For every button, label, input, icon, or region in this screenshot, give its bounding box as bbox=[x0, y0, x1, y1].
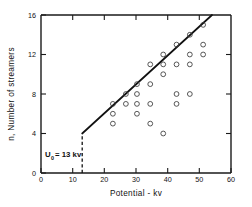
data-point bbox=[174, 92, 179, 97]
threshold-annotation: U 0 = 13 kv bbox=[45, 150, 82, 161]
data-point bbox=[135, 101, 140, 106]
data-point bbox=[110, 111, 115, 116]
x-tick-label-50: 50 bbox=[195, 175, 203, 184]
data-point bbox=[174, 101, 179, 106]
data-point bbox=[135, 92, 140, 97]
data-point bbox=[187, 52, 192, 57]
data-point bbox=[187, 62, 192, 67]
y-tick-label-8: 8 bbox=[32, 90, 36, 99]
data-point bbox=[161, 62, 166, 67]
data-point bbox=[201, 42, 206, 47]
y-tick-label-0: 0 bbox=[32, 169, 36, 178]
y-tick-label-12: 12 bbox=[28, 50, 36, 59]
data-point bbox=[123, 101, 128, 106]
x-tick-label-40: 40 bbox=[164, 175, 172, 184]
x-axis-tick-labels: 0 10 20 30 40 50 60 bbox=[39, 175, 235, 184]
scatter-points-layer bbox=[110, 22, 205, 135]
annotation-value: = 13 kv bbox=[55, 150, 82, 159]
y-tick-label-16: 16 bbox=[28, 11, 36, 20]
linear-fit-line bbox=[82, 15, 212, 134]
data-point bbox=[174, 62, 179, 67]
data-point bbox=[201, 52, 206, 57]
data-point bbox=[161, 52, 166, 57]
data-point bbox=[187, 92, 192, 97]
data-point bbox=[135, 111, 140, 116]
y-axis-title: n, Number of streamers bbox=[7, 47, 16, 141]
chart-canvas: 0 10 20 30 40 50 60 0 4 8 12 16 bbox=[0, 0, 252, 207]
x-tick-label-20: 20 bbox=[100, 175, 108, 184]
annotation-subscript: 0 bbox=[51, 155, 54, 161]
data-point bbox=[161, 131, 166, 136]
x-axis-title: Potential - kv bbox=[110, 189, 163, 198]
x-tick-label-60: 60 bbox=[227, 175, 235, 184]
y-tick-label-4: 4 bbox=[32, 129, 36, 138]
data-point bbox=[148, 62, 153, 67]
data-point bbox=[110, 121, 115, 126]
x-tick-label-0: 0 bbox=[39, 175, 43, 184]
data-point bbox=[148, 121, 153, 126]
data-point bbox=[148, 101, 153, 106]
x-tick-label-30: 30 bbox=[132, 175, 140, 184]
data-point bbox=[148, 82, 153, 87]
scatter-chart-figure: 0 10 20 30 40 50 60 0 4 8 12 16 bbox=[0, 0, 252, 207]
x-tick-label-10: 10 bbox=[69, 175, 77, 184]
y-axis-tick-labels: 0 4 8 12 16 bbox=[28, 11, 36, 178]
data-point bbox=[161, 72, 166, 77]
